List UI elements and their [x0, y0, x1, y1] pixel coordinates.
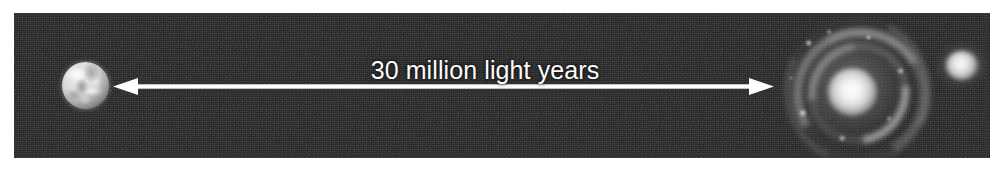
spiral-galaxy-icon [778, 15, 924, 155]
distance-label: 30 million light years [345, 55, 625, 85]
earth-globe-icon [62, 62, 109, 109]
elliptical-galaxy-icon [932, 37, 990, 95]
distance-scale-figure: 30 million light years [0, 0, 1003, 172]
space-photo-panel: 30 million light years [14, 13, 990, 158]
galaxy-nucleus [828, 68, 878, 116]
earth-disc [62, 62, 109, 109]
companion-galaxy-nucleus [946, 51, 978, 80]
